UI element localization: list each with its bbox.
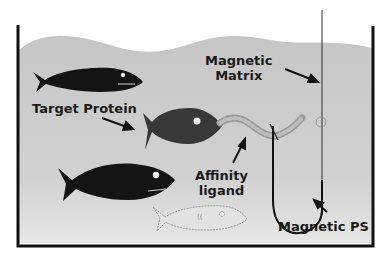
label-magnetic-matrix: Magnetic Matrix	[205, 53, 272, 83]
label-magnetic-ps: Magnetic PS	[278, 219, 369, 234]
label-target-protein: Target Protein	[32, 101, 137, 116]
label-affinity-ligand: Affinity ligand	[195, 168, 248, 198]
svg-text:((: ((	[197, 213, 203, 221]
